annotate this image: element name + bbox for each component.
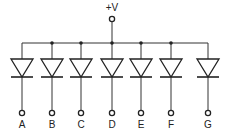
terminal-label: G (204, 119, 212, 130)
diode-triangle-icon (11, 59, 33, 77)
junction-dot-icon (50, 41, 54, 45)
diode-a: A (11, 43, 33, 130)
terminal-label: F (168, 119, 174, 130)
diode-b: B (41, 41, 63, 130)
diode-array: ABCDEFG (11, 41, 219, 130)
output-terminal-icon (78, 110, 83, 115)
junction-dot-icon (110, 41, 114, 45)
output-terminal-icon (205, 110, 210, 115)
output-terminal-icon (109, 110, 114, 115)
junction-dot-icon (79, 41, 83, 45)
diode-triangle-icon (160, 59, 182, 77)
terminal-label: D (108, 119, 115, 130)
output-terminal-icon (19, 110, 24, 115)
terminal-label: B (49, 119, 56, 130)
supply-terminal-icon (109, 16, 114, 21)
diode-d: D (101, 41, 123, 130)
diode-triangle-icon (41, 59, 63, 77)
diode-triangle-icon (101, 59, 123, 77)
diode-e: E (130, 41, 152, 130)
output-terminal-icon (49, 110, 54, 115)
terminal-label: C (77, 119, 84, 130)
diode-c: C (70, 41, 92, 130)
diode-triangle-icon (197, 59, 219, 77)
junction-dot-icon (139, 41, 143, 45)
diode-triangle-icon (70, 59, 92, 77)
diode-triangle-icon (130, 59, 152, 77)
junction-dot-icon (169, 41, 173, 45)
output-terminal-icon (138, 110, 143, 115)
supply-voltage-label: +V (106, 2, 119, 13)
terminal-label: E (138, 119, 145, 130)
terminal-label: A (19, 119, 26, 130)
output-terminal-icon (168, 110, 173, 115)
common-anode-diode-schematic: +V ABCDEFG (0, 0, 232, 133)
diode-f: F (160, 41, 182, 130)
diode-g: G (197, 43, 219, 130)
